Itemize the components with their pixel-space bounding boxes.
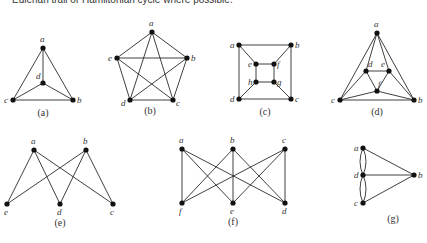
- edge-d-c: [340, 71, 366, 100]
- edge-a-e: [117, 32, 152, 58]
- vertex-label-b: b: [191, 53, 196, 63]
- vertex-label-e: e: [248, 59, 252, 69]
- vertex-c: [337, 97, 342, 102]
- vertex-label-d: d: [282, 206, 287, 216]
- graph-f: abcfed(f): [179, 135, 288, 228]
- vertex-label-a: a: [40, 34, 45, 44]
- vertex-label-c: c: [110, 207, 114, 217]
- edge-e-b: [389, 71, 414, 100]
- vertex-label-a: a: [230, 40, 235, 50]
- edge-a-b: [43, 48, 73, 100]
- multi-edge-d-c: [363, 175, 366, 203]
- vertex-label-e: e: [4, 207, 8, 217]
- vertex-label-b: b: [83, 136, 88, 146]
- vertex-h: [253, 79, 258, 84]
- vertex-label-a: a: [149, 18, 154, 28]
- vertex-b: [70, 97, 75, 102]
- edge-a-c: [152, 32, 173, 100]
- vertex-f: [179, 200, 184, 205]
- vertex-a: [31, 147, 36, 152]
- vertex-label-h: h: [248, 77, 253, 87]
- graph-c: abefhgdc(c): [230, 40, 300, 118]
- vertex-g: [271, 79, 276, 84]
- vertex-b: [288, 42, 293, 47]
- graph-caption: (c): [259, 106, 270, 118]
- vertex-label-d: d: [121, 98, 126, 108]
- vertex-label-a: a: [354, 143, 359, 153]
- vertex-label-f: f: [179, 206, 183, 216]
- vertex-label-a: a: [31, 136, 36, 146]
- vertex-d: [236, 96, 241, 101]
- graph-caption: (g): [387, 213, 399, 225]
- vertex-e: [4, 201, 9, 206]
- edge-f-b: [377, 91, 414, 100]
- vertex-c: [10, 97, 15, 102]
- graph-caption: (a): [37, 107, 48, 119]
- vertex-a: [360, 145, 365, 150]
- edge-b-c: [173, 58, 187, 100]
- graph-e: abedc(e): [4, 136, 116, 229]
- vertex-e: [230, 200, 235, 205]
- vertex-f: [271, 61, 276, 66]
- vertex-label-d: d: [368, 59, 373, 69]
- vertex-label-g: g: [277, 77, 282, 87]
- vertex-d: [363, 68, 368, 73]
- vertex-label-e: e: [230, 206, 234, 216]
- vertex-a: [179, 146, 184, 151]
- edge-a-b: [152, 32, 187, 58]
- graph-d: adefcb(d): [331, 19, 423, 118]
- edge-d-f: [366, 71, 377, 91]
- multi-edge-d-c: [360, 175, 363, 203]
- vertex-label-b: b: [295, 40, 300, 50]
- graph-figure: adcb(a)aebdc(b)abefhgdc(c)adefcb(d)abedc…: [0, 0, 427, 243]
- vertex-label-e: e: [108, 53, 112, 63]
- vertex-label-d: d: [354, 170, 359, 180]
- vertex-d: [282, 200, 287, 205]
- edge-a-d: [130, 32, 152, 100]
- vertex-b: [411, 172, 416, 177]
- graph-b: aebdc(b): [108, 18, 196, 117]
- vertex-c: [110, 201, 115, 206]
- vertex-c: [360, 200, 365, 205]
- vertex-e: [114, 55, 119, 60]
- vertex-label-d: d: [57, 207, 62, 217]
- edge-c-b: [363, 175, 414, 203]
- vertex-label-f: f: [277, 59, 281, 69]
- vertex-label-c: c: [295, 94, 299, 104]
- vertex-d: [40, 80, 45, 85]
- vertex-d: [360, 172, 365, 177]
- edge-c-f: [340, 91, 377, 100]
- vertex-label-c: c: [282, 135, 286, 145]
- vertex-e: [253, 61, 258, 66]
- graph-caption: (e): [54, 217, 65, 229]
- vertex-label-b: b: [77, 95, 82, 105]
- edge-b-c: [86, 150, 113, 204]
- multi-edge-a-d: [360, 148, 363, 175]
- vertex-f: [374, 88, 379, 93]
- vertex-label-c: c: [176, 98, 180, 108]
- edge-b-d: [130, 58, 187, 100]
- vertex-a: [149, 29, 154, 34]
- edge-b-d: [60, 150, 86, 204]
- vertex-label-b: b: [418, 170, 423, 180]
- graph-caption: (b): [144, 105, 156, 117]
- vertex-label-e: e: [381, 59, 385, 69]
- edge-a-e: [7, 150, 34, 204]
- vertex-label-a: a: [374, 19, 379, 29]
- vertex-a: [40, 45, 45, 50]
- vertex-c: [170, 97, 175, 102]
- vertex-label-b: b: [418, 95, 423, 105]
- vertex-label-a: a: [179, 135, 184, 145]
- edge-a-b: [363, 148, 414, 175]
- vertex-label-c: c: [4, 95, 8, 105]
- vertex-label-b: b: [230, 135, 235, 145]
- graph-g: adcb(g): [354, 143, 423, 225]
- graph-caption: (d): [371, 106, 383, 118]
- vertex-a: [236, 42, 241, 47]
- vertex-b: [184, 55, 189, 60]
- vertex-label-d: d: [230, 94, 235, 104]
- vertex-a: [374, 30, 379, 35]
- vertex-c: [288, 96, 293, 101]
- vertex-label-d: d: [36, 71, 41, 81]
- multi-edge-a-d: [363, 148, 366, 175]
